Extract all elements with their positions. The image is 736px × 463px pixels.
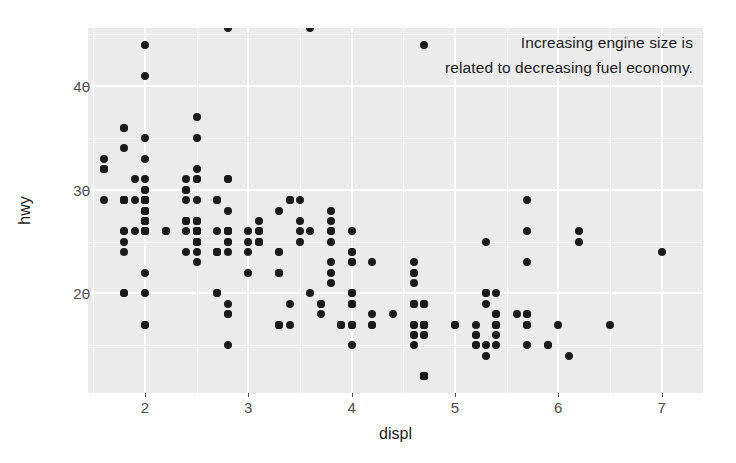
data-point bbox=[141, 196, 149, 204]
x-tick-mark bbox=[455, 393, 456, 397]
data-point bbox=[327, 258, 335, 266]
data-point bbox=[275, 269, 283, 277]
data-point bbox=[327, 238, 335, 246]
data-point bbox=[131, 175, 139, 183]
data-point bbox=[120, 144, 128, 152]
x-tick-label: 6 bbox=[554, 399, 562, 416]
data-point bbox=[100, 165, 108, 173]
data-point bbox=[306, 289, 314, 297]
data-point bbox=[410, 279, 418, 287]
data-point bbox=[317, 310, 325, 318]
data-point bbox=[296, 196, 304, 204]
data-point bbox=[420, 300, 428, 308]
gridline-major-horizontal bbox=[88, 189, 703, 191]
x-tick-mark bbox=[352, 393, 353, 397]
data-point bbox=[348, 321, 356, 329]
data-point bbox=[224, 300, 232, 308]
data-point bbox=[224, 207, 232, 215]
data-point bbox=[482, 341, 490, 349]
data-point bbox=[120, 227, 128, 235]
y-axis-title: hwy bbox=[14, 28, 36, 393]
gridline-minor-vertical bbox=[610, 28, 611, 393]
data-point bbox=[554, 321, 562, 329]
data-point bbox=[120, 196, 128, 204]
data-point bbox=[513, 310, 521, 318]
data-point bbox=[492, 310, 500, 318]
x-axis-title: displ bbox=[88, 425, 703, 443]
data-point bbox=[224, 310, 232, 318]
data-point bbox=[296, 217, 304, 225]
data-point bbox=[193, 227, 201, 235]
data-point bbox=[193, 175, 201, 183]
data-point bbox=[575, 227, 583, 235]
data-point bbox=[420, 321, 428, 329]
data-point bbox=[213, 248, 221, 256]
data-point bbox=[224, 28, 232, 32]
scatter-plot-figure: Increasing engine size is related to dec… bbox=[0, 0, 736, 463]
data-point bbox=[296, 238, 304, 246]
data-point bbox=[141, 186, 149, 194]
data-point bbox=[348, 300, 356, 308]
data-point bbox=[410, 258, 418, 266]
data-point bbox=[213, 289, 221, 297]
data-point bbox=[337, 321, 345, 329]
data-point bbox=[327, 279, 335, 287]
data-point bbox=[410, 269, 418, 277]
data-point bbox=[275, 207, 283, 215]
data-point bbox=[275, 321, 283, 329]
data-point bbox=[523, 258, 531, 266]
data-point bbox=[348, 258, 356, 266]
x-tick-mark bbox=[145, 393, 146, 397]
data-point bbox=[275, 248, 283, 256]
data-point bbox=[472, 331, 480, 339]
data-point bbox=[327, 227, 335, 235]
data-point bbox=[368, 258, 376, 266]
data-point bbox=[348, 289, 356, 297]
data-point bbox=[193, 217, 201, 225]
gridline-major-vertical bbox=[661, 28, 663, 393]
data-point bbox=[348, 248, 356, 256]
data-point bbox=[348, 227, 356, 235]
plot-panel: Increasing engine size is related to dec… bbox=[88, 28, 703, 393]
data-point bbox=[224, 238, 232, 246]
data-point bbox=[523, 310, 531, 318]
data-point bbox=[182, 196, 190, 204]
data-point bbox=[296, 227, 304, 235]
data-point bbox=[182, 227, 190, 235]
data-point bbox=[244, 248, 252, 256]
data-point bbox=[141, 134, 149, 142]
data-point bbox=[100, 196, 108, 204]
x-tick-label: 4 bbox=[347, 399, 355, 416]
data-point bbox=[472, 341, 480, 349]
data-point bbox=[482, 352, 490, 360]
data-point bbox=[420, 372, 428, 380]
data-point bbox=[131, 227, 139, 235]
data-point bbox=[306, 227, 314, 235]
data-point bbox=[224, 341, 232, 349]
data-point bbox=[244, 238, 252, 246]
data-point bbox=[193, 196, 201, 204]
data-point bbox=[286, 321, 294, 329]
data-point bbox=[182, 186, 190, 194]
data-point bbox=[523, 227, 531, 235]
gridline-minor-vertical bbox=[300, 28, 301, 393]
gridline-major-vertical bbox=[351, 28, 353, 393]
gridline-minor-horizontal bbox=[88, 345, 703, 346]
data-point bbox=[606, 321, 614, 329]
gridline-major-horizontal bbox=[88, 292, 703, 294]
x-tick-label: 7 bbox=[657, 399, 665, 416]
gridline-minor-vertical bbox=[93, 28, 94, 393]
data-point bbox=[141, 155, 149, 163]
data-point bbox=[451, 321, 459, 329]
data-point bbox=[120, 238, 128, 246]
data-point bbox=[224, 227, 232, 235]
data-point bbox=[193, 165, 201, 173]
gridline-major-horizontal bbox=[88, 85, 703, 87]
x-tick-label: 2 bbox=[141, 399, 149, 416]
data-point bbox=[575, 238, 583, 246]
data-point bbox=[492, 321, 500, 329]
data-point bbox=[389, 310, 397, 318]
data-point bbox=[213, 227, 221, 235]
data-point bbox=[327, 217, 335, 225]
data-point bbox=[492, 331, 500, 339]
